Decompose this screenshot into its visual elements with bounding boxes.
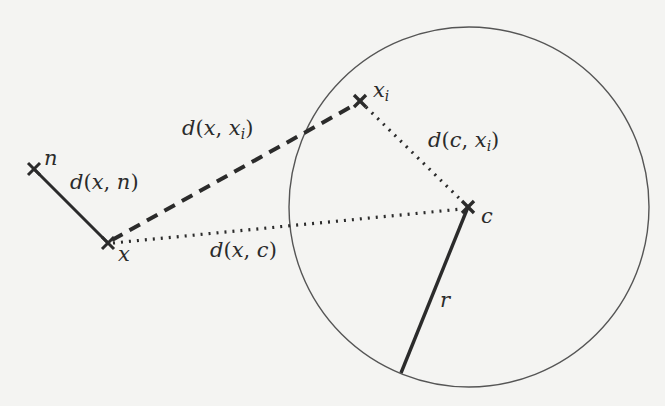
radius-line [401,207,468,373]
d-symbol: d [182,116,195,140]
paren-open: ( [83,170,91,194]
diagram-canvas: n x xi c r d(x, n) d(x, xi) d(x, c) d(c,… [0,0,665,406]
paren-close: ) [245,116,253,140]
point-xi-cross-icon [354,95,366,107]
label-d-x-n: d(x, n) [70,172,139,193]
paren-close: ) [491,128,499,152]
paren-open: ( [195,116,203,140]
arg-a: x [204,116,216,140]
label-x: x [118,244,130,265]
paren-open: ( [223,238,231,262]
comma: , [461,128,474,152]
label-n: n [44,148,58,169]
d-symbol: d [210,238,223,262]
label-xi-main: x [373,78,385,102]
edge-c-xi [366,107,463,202]
comma: , [104,170,117,194]
arg-b: n [117,170,131,194]
comma: , [244,238,257,262]
edge-x-c [113,209,462,243]
point-n-cross-icon [28,163,40,175]
paren-close: ) [130,170,138,194]
arg-a: c [450,128,462,152]
arg-a: x [232,238,244,262]
label-d-x-xi: d(x, xi) [182,118,253,139]
label-xi: xi [373,80,389,101]
paren-close: ) [269,238,277,262]
d-symbol: d [70,170,83,194]
metric-ball-diagram [0,0,665,406]
point-x-cross-icon [102,237,114,249]
paren-open: ( [441,128,449,152]
arg-a: x [92,170,104,194]
d-symbol: d [428,128,441,152]
comma: , [216,116,229,140]
arg-b: c [257,238,269,262]
label-xi-sub: i [385,88,389,104]
label-d-x-c: d(x, c) [210,240,277,261]
arg-b: x [475,128,487,152]
label-d-c-xi: d(c, xi) [428,130,499,151]
label-c: c [481,206,493,227]
label-r: r [440,290,450,311]
arg-b: x [229,116,241,140]
